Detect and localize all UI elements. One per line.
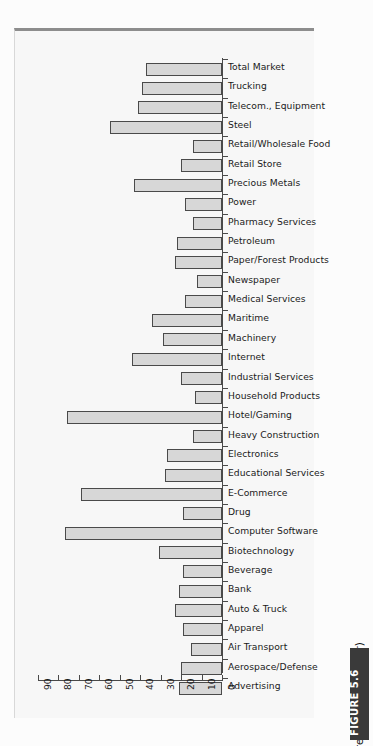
bar-row: Biotechnology <box>0 544 373 563</box>
value-axis-line <box>222 58 223 673</box>
bar-row: Aerospace/Defense <box>0 660 373 679</box>
bar <box>110 121 222 134</box>
bar-row: Computer Software <box>0 524 373 543</box>
bar <box>183 507 222 520</box>
bar <box>185 295 222 308</box>
bar <box>132 353 222 366</box>
bar-row: Machinery <box>0 331 373 350</box>
bar-row: Educational Services <box>0 466 373 485</box>
bar-category-label: Hotel/Gaming <box>228 409 292 420</box>
x-axis-tick <box>38 675 39 681</box>
figure-root: Total MarketTruckingTelecom., EquipmentS… <box>0 0 373 746</box>
bar-category-label: Pharmacy Services <box>228 216 316 227</box>
bar-row: Total Market <box>0 60 373 79</box>
bar <box>159 546 222 559</box>
bar <box>165 469 222 482</box>
bar <box>67 411 222 424</box>
bar-rows: Total MarketTruckingTelecom., EquipmentS… <box>0 60 373 698</box>
bar-category-label: E-Commerce <box>228 487 288 498</box>
x-axis-tick-label: 10 <box>206 678 217 690</box>
bar-category-label: Steel <box>228 119 252 130</box>
bar <box>191 643 222 656</box>
bar <box>163 333 222 346</box>
bar <box>167 449 222 462</box>
bar-category-label: Computer Software <box>228 525 318 536</box>
bar-category-label: Retail/Wholesale Food <box>228 138 330 149</box>
x-axis-tick-label: 30 <box>165 678 176 690</box>
bar <box>142 82 222 95</box>
bar-category-label: Medical Services <box>228 293 306 304</box>
x-axis-tick <box>181 675 182 681</box>
bar <box>183 623 222 636</box>
bar <box>177 237 222 250</box>
bar-category-label: Air Transport <box>228 641 287 652</box>
bar <box>181 159 222 172</box>
bar <box>65 527 222 540</box>
bar-row: Precious Metals <box>0 176 373 195</box>
bar <box>193 430 222 443</box>
x-axis-tick <box>202 675 203 681</box>
bar-row: Bank <box>0 582 373 601</box>
x-axis-tick <box>222 675 223 681</box>
bar-category-label: Total Market <box>228 61 285 72</box>
x-axis-tick-label: 40 <box>144 678 155 690</box>
bar-row: Maritime <box>0 311 373 330</box>
bar-row: Heavy Construction <box>0 428 373 447</box>
x-axis-tick <box>79 675 80 681</box>
bar-category-label: Beverage <box>228 564 272 575</box>
bar-row: Medical Services <box>0 292 373 311</box>
plot-area: Total MarketTruckingTelecom., EquipmentS… <box>0 0 373 746</box>
x-axis-tick-label: 90 <box>42 678 53 690</box>
x-axis-tick-label: 70 <box>83 678 94 690</box>
x-axis-tick <box>58 675 59 681</box>
bar-category-label: Petroleum <box>228 235 275 246</box>
bar <box>193 217 222 230</box>
bar-category-label: Newspaper <box>228 274 280 285</box>
bar-row: Retail Store <box>0 157 373 176</box>
bar-row: Newspaper <box>0 273 373 292</box>
bar-category-label: Educational Services <box>228 467 325 478</box>
bar-category-label: Biotechnology <box>228 545 294 556</box>
bar-row: Internet <box>0 350 373 369</box>
bar-row: E-Commerce <box>0 486 373 505</box>
x-axis-tick <box>161 675 162 681</box>
bar-category-label: Retail Store <box>228 158 282 169</box>
bar-row: Paper/Forest Products <box>0 253 373 272</box>
bar-row: Drug <box>0 505 373 524</box>
bar <box>185 198 222 211</box>
x-axis-tick-label: 0 <box>226 684 237 690</box>
bar-category-label: Apparel <box>228 622 264 633</box>
bar-category-label: Machinery <box>228 332 276 343</box>
bar-category-label: Industrial Services <box>228 371 314 382</box>
bar <box>138 101 222 114</box>
x-axis-tick <box>140 675 141 681</box>
bar <box>183 565 222 578</box>
figure-tag: FIGURE 5.6 <box>350 648 369 740</box>
bar-category-label: Heavy Construction <box>228 429 319 440</box>
bar-category-label: Household Products <box>228 390 320 401</box>
bar-row: Apparel <box>0 621 373 640</box>
bar <box>175 604 222 617</box>
bar-row: Auto & Truck <box>0 602 373 621</box>
bar <box>197 275 222 288</box>
bar-row: Electronics <box>0 447 373 466</box>
bar-category-label: Electronics <box>228 448 279 459</box>
bar-category-label: Aerospace/Defense <box>228 661 318 672</box>
bar-category-label: Drug <box>228 506 251 517</box>
bar-category-label: Trucking <box>228 80 267 91</box>
x-axis-tick-label: 50 <box>124 678 135 690</box>
figure-tag-label: FIGURE 5.6 <box>349 669 360 736</box>
bar-row: Pharmacy Services <box>0 215 373 234</box>
bar <box>181 662 222 675</box>
bar-category-label: Telecom., Equipment <box>228 100 325 111</box>
x-axis-tick-label: 20 <box>185 678 196 690</box>
bar <box>193 140 222 153</box>
bar <box>81 488 222 501</box>
bar <box>152 314 222 327</box>
bar-category-label: Power <box>228 196 256 207</box>
bar-row: Industrial Services <box>0 370 373 389</box>
bar-row: Retail/Wholesale Food <box>0 137 373 156</box>
x-axis-tick <box>99 675 100 681</box>
bar <box>134 179 222 192</box>
x-axis-tick-label: 80 <box>62 678 73 690</box>
